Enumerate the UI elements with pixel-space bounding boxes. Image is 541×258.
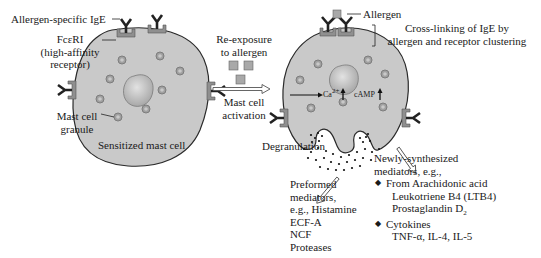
sensitized-caption: Sensitized mast cell bbox=[98, 139, 185, 152]
bullet-icon: ◆ bbox=[375, 218, 381, 231]
camp-label: cAMP bbox=[354, 89, 375, 102]
degranulation-label: Degranulation bbox=[262, 140, 325, 153]
allergen-square bbox=[333, 10, 341, 18]
fceri-label: FcεRI (high-affinity receptor) bbox=[38, 33, 102, 71]
cytokines-group: ◆ Cytokines TNF-α, IL-4, IL-5 bbox=[374, 218, 496, 243]
nucleus bbox=[123, 75, 153, 107]
preformed-mediators: Preformed mediators, e.g., Histamine ECF… bbox=[290, 178, 357, 253]
arachidonic-group: ◆ From Arachidonic acid Leukotriene B4 (… bbox=[374, 177, 496, 215]
reexposure-label: Re-exposure to allergen bbox=[211, 33, 277, 58]
bullet-icon: ◆ bbox=[375, 177, 381, 190]
ige-label: Allergen-specific IgE bbox=[11, 13, 106, 26]
granule-label: Mast cell granule bbox=[52, 110, 102, 135]
calcium-label: Ca2+ bbox=[323, 89, 339, 102]
crosslinking-label: Cross-linking of IgE by allergen and rec… bbox=[382, 22, 532, 47]
mast-cell-diagram: Allergen-specific IgE FcεRI (high-affini… bbox=[0, 0, 541, 258]
activation-label: Mast cell activation bbox=[211, 96, 277, 121]
newly-synthesized-mediators: Newly-synthesized mediators, e.g., ◆ Fro… bbox=[374, 152, 496, 243]
allergen-label: Allergen bbox=[363, 8, 401, 21]
allergen-reexposure bbox=[213, 61, 270, 94]
